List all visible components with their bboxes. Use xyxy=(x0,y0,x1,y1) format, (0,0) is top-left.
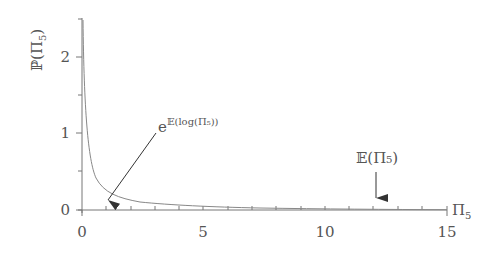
y-tick-1: 1 xyxy=(60,124,70,142)
y-tick-2: 2 xyxy=(60,48,70,66)
x-tick-10: 10 xyxy=(315,223,334,241)
x-tick-5: 5 xyxy=(198,223,208,241)
geo-mean-arrow xyxy=(108,133,156,200)
geo-mean-label: e𝔼(log(Π₅)) xyxy=(158,116,219,136)
chart: 0 1 2 0 5 10 15 ℙ(Π5) Π5 e𝔼(log(Π₅)) 𝔼(Π… xyxy=(0,0,487,258)
mean-label: 𝔼(Π₅) xyxy=(356,149,398,167)
svg-text:ℙ(Π5): ℙ(Π5) xyxy=(28,29,48,71)
x-tick-15: 15 xyxy=(437,223,456,241)
y-axis-label: ℙ(Π5) xyxy=(28,29,48,71)
y-ticks xyxy=(76,19,82,210)
x-ticks xyxy=(82,206,447,216)
density-curve xyxy=(83,20,447,210)
x-tick-0: 0 xyxy=(77,223,87,241)
x-axis-label: Π5 xyxy=(452,201,471,221)
y-tick-0: 0 xyxy=(60,201,70,219)
